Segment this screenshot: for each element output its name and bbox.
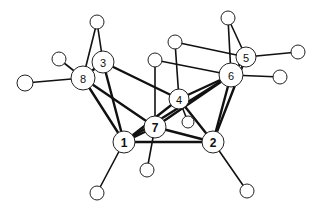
atom-h4a <box>168 35 182 49</box>
atoms-layer: 12345678 <box>17 11 305 200</box>
atom-h2 <box>240 184 254 198</box>
atom-6: 6 <box>219 63 243 87</box>
atom-h7b <box>140 163 154 177</box>
atom-3: 3 <box>92 51 114 73</box>
bond-3-4 <box>103 62 179 99</box>
atom-h5b <box>291 45 305 59</box>
atom-5: 5 <box>236 47 256 67</box>
atom-label: 4 <box>176 94 182 106</box>
atom-8: 8 <box>71 66 95 90</box>
bond-5-h4a <box>175 42 246 57</box>
atom-label: 1 <box>121 136 128 150</box>
atom-label: 2 <box>210 136 217 150</box>
atom-4: 4 <box>169 89 189 109</box>
molecule-diagram: 12345678 <box>0 0 321 212</box>
atom-label: 6 <box>228 70 234 82</box>
atom-label: 3 <box>100 57 106 69</box>
atom-1: 1 <box>113 131 135 153</box>
atom-h5a <box>221 11 235 25</box>
atom-label: 7 <box>152 121 159 135</box>
atom-h4b <box>182 116 194 128</box>
atom-h3b <box>52 52 66 66</box>
atom-label: 5 <box>243 52 249 64</box>
atom-h6 <box>273 70 287 84</box>
atom-h1 <box>90 186 104 200</box>
atom-h8 <box>17 75 33 91</box>
atom-2: 2 <box>202 131 224 153</box>
atom-h7a <box>148 53 162 67</box>
bonds-layer <box>25 18 298 193</box>
atom-7: 7 <box>144 116 166 138</box>
bond-1-3 <box>103 62 124 142</box>
atom-h3a <box>90 15 104 29</box>
atom-label: 8 <box>80 73 86 85</box>
